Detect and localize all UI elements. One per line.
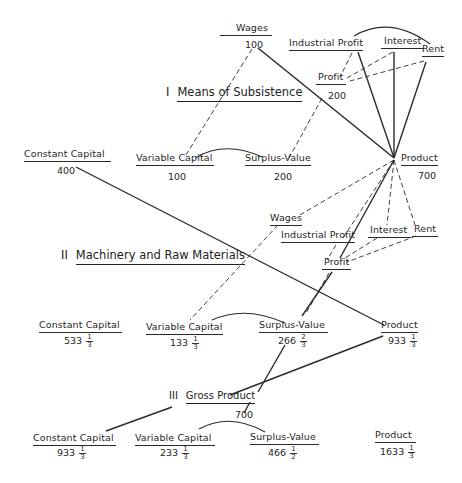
section-title-text: Machinery and Raw Materials (76, 248, 245, 265)
diagram-connections (0, 0, 462, 483)
value-400: 400 (57, 165, 75, 176)
value-whole: 466 (268, 447, 286, 458)
node-constant-capital-III: Constant Capital (33, 432, 116, 446)
value-variable-capital-I: 100 (168, 171, 186, 182)
section-title-text: Gross Product (186, 390, 255, 404)
value-surplus-value-I: 200 (274, 171, 292, 182)
value-whole: 1633 (380, 446, 404, 457)
fraction: 13 (192, 336, 198, 351)
section-numeral: II (61, 248, 68, 262)
node-interest-I: Interest (381, 35, 424, 49)
denominator: 3 (182, 454, 188, 461)
connector-constant-capital-product (76, 167, 384, 325)
node-constant-capital-400: Constant Capital (24, 148, 111, 162)
value-variable-capital-II: 13313 (170, 336, 199, 351)
value-whole: 933 (388, 335, 406, 346)
node-variable-capital-II: Variable Capital (146, 321, 223, 335)
node-surplus-value-III: Surplus-Value (250, 431, 319, 445)
node-constant-capital-II: Constant Capital (39, 319, 122, 333)
value-product-II: 93313 (388, 334, 417, 349)
node-surplus-value-I: Surplus-Value (245, 152, 311, 166)
connector-gross-constant-III (106, 407, 172, 431)
node-rent-I: Rent (422, 43, 444, 57)
denominator: 3 (192, 344, 198, 351)
denominator: 3 (86, 342, 92, 349)
node-interest-II: Interest (368, 224, 411, 238)
value-whole: 133 (170, 337, 188, 348)
node-profit-II: Profit (322, 256, 351, 270)
node-wages-I: Wages (220, 22, 272, 36)
node-product-III: Product (375, 429, 416, 443)
value-profit-I: 200 (328, 90, 346, 101)
denominator: 3 (410, 342, 416, 349)
denominator: 3 (300, 342, 306, 349)
section-III-title: IIIGross Product (169, 390, 255, 401)
fraction: 12 (290, 446, 296, 461)
fraction: 13 (182, 446, 188, 461)
denominator: 3 (408, 453, 414, 460)
value-whole: 233 (160, 447, 178, 458)
value-whole: 933 (57, 447, 75, 458)
value-whole: 266 (278, 335, 296, 346)
node-product-I: Product (401, 152, 438, 166)
denominator: 2 (290, 454, 296, 461)
connector-profit-product-II (340, 160, 394, 258)
connector-wages-product (258, 48, 394, 158)
fraction: 13 (86, 334, 92, 349)
node-product-II: Product (381, 319, 418, 333)
section-numeral: I (166, 85, 169, 99)
section-II-title: IIMachinery and Raw Materials (61, 248, 245, 262)
value-constant-capital-II: 53313 (64, 334, 93, 349)
denominator: 3 (79, 454, 85, 461)
value-variable-capital-III: 23313 (160, 446, 189, 461)
section-numeral: III (169, 390, 178, 401)
node-variable-capital-I: Variable Capital (136, 152, 214, 166)
node-rent-II: Rent (412, 223, 438, 237)
node-industrial-profit-II: Industrial Profit (281, 229, 355, 243)
node-wages-II: Wages (270, 212, 302, 226)
value-whole: 533 (64, 335, 82, 346)
fraction: 13 (410, 334, 416, 349)
section-title-text: Means of Subsistence (177, 85, 302, 102)
node-variable-capital-III: Variable Capital (135, 432, 215, 446)
connector-surplus-266-gross (258, 345, 285, 392)
node-profit-I: Profit (316, 71, 346, 85)
connector-industrial-profit-product (358, 52, 394, 158)
value-product-III: 163313 (380, 445, 415, 460)
section-I-title: IMeans of Subsistence (166, 85, 302, 99)
node-industrial-profit-I: Industrial Profit (289, 37, 363, 51)
fraction: 23 (300, 334, 306, 349)
fraction: 13 (79, 446, 85, 461)
value-surplus-value-II: 26623 (278, 334, 307, 349)
value-constant-capital-III: 93313 (57, 446, 86, 461)
value-product-I: 700 (418, 170, 436, 181)
gross-product-value: 700 (235, 409, 253, 420)
connector-rent-product (394, 62, 426, 158)
value-surplus-value-III: 46612 (268, 446, 297, 461)
fraction: 13 (408, 445, 414, 460)
value-wages-I: 100 (245, 39, 263, 50)
node-surplus-value-II: Surplus-Value (259, 319, 328, 333)
